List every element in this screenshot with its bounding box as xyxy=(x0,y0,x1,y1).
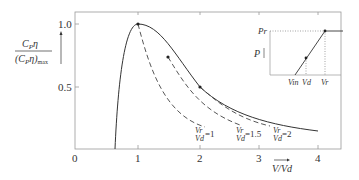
y-axis-label: CPη (CPη)max xyxy=(15,31,63,66)
inset-p-label: P xyxy=(253,48,260,59)
x-tick-4: 4 xyxy=(315,152,321,164)
x-tick-3: 3 xyxy=(256,152,262,164)
dashed-curve-2 xyxy=(200,87,270,126)
marker-2 xyxy=(198,85,201,88)
y-tick-1: 1.0 xyxy=(58,18,72,30)
svg-text:(CPη)max: (CPη)max xyxy=(15,53,48,66)
x-tick-0: 0 xyxy=(72,152,78,164)
annotation-vr-vd-1: Vr Vd =1 xyxy=(195,126,215,143)
marker-peak xyxy=(136,22,139,25)
dashed-curve-1 xyxy=(138,24,205,127)
inset-power-curve: Pr P Vin Vd Vr xyxy=(253,26,343,87)
svg-text:CPη: CPη xyxy=(22,38,38,51)
annotation-vr-vd-2: Vr Vd =2 xyxy=(273,126,292,143)
x-tick-2: 2 xyxy=(197,152,203,164)
marker-15 xyxy=(166,55,169,58)
annotation-vr-vd-15: Vr Vd =1.5 xyxy=(236,126,262,143)
efficiency-chart: 1.0 0.5 0 1 2 3 4 V/Vd CPη (CPη)max Vr V… xyxy=(0,0,359,180)
y-tick-05: 0.5 xyxy=(58,81,72,93)
svg-text:=1: =1 xyxy=(205,129,215,139)
svg-text:=1.5: =1.5 xyxy=(245,129,262,139)
x-axis-label: V/Vd xyxy=(272,163,293,174)
inset-vd-label: Vd xyxy=(302,78,312,87)
inset-vin-label: Vin xyxy=(288,78,299,87)
x-tick-1: 1 xyxy=(135,152,141,164)
svg-text:Vd: Vd xyxy=(195,134,205,143)
svg-text:=2: =2 xyxy=(282,129,292,139)
inset-pr-label: Pr xyxy=(257,26,267,36)
inset-vr-label: Vr xyxy=(321,78,329,87)
